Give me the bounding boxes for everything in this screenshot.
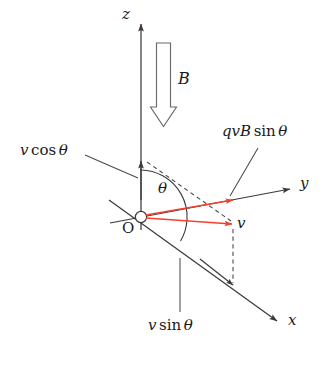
label-v-cos-theta-theta: θ [59,141,68,159]
leader-line-qvb-sin-theta [230,148,258,196]
label-qvb-q: q [222,122,232,140]
magnetic-field-label: B [178,71,190,87]
magnetic-field-arrow-icon [151,43,177,127]
label-qvb-sin: sin [254,122,276,140]
origin-label: O [122,221,134,236]
force-vector-arrow[interactable] [146,200,233,215]
angle-label-theta: θ [158,181,167,196]
label-v-sin-theta-theta: θ [184,316,193,334]
label-v-sin-theta: vsinθ [148,318,193,333]
label-v-cos-theta-v: v [20,141,28,159]
velocity-label: v [237,216,245,231]
label-qvb-B: B [240,122,251,140]
label-v-sin-theta-sin: sin [159,316,181,334]
label-qvb-theta: θ [278,122,287,140]
label-v-cos-theta-cos: cos [31,141,56,159]
axis-x-line [109,200,277,321]
axis-x [109,200,277,321]
label-v-cos-theta: vcosθ [20,143,68,158]
label-qvb-sin-theta: qvBsinθ [222,124,287,139]
v-sin-theta-component-arrow [200,259,233,285]
origin-marker-icon [135,211,146,222]
axis-label-x: x [288,313,296,328]
axis-label-y: y [300,176,308,191]
leader-line-v-cos-theta [85,155,138,178]
velocity-vector-arrow[interactable] [146,218,232,224]
label-qvb-v: v [232,122,240,140]
axis-label-z: z [122,7,130,22]
label-v-sin-theta-v: v [148,316,156,334]
diagram-canvas: z y x O B θ v vcosθ qvBsinθ vsinθ [0,0,333,370]
